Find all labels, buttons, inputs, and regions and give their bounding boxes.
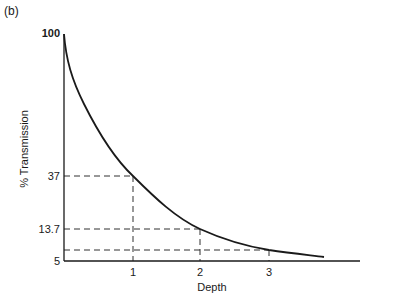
- x-tick-3: 3: [266, 266, 272, 278]
- y-tick-100: 100: [42, 27, 60, 39]
- reference-lines: [64, 176, 269, 261]
- x-tick-1: 1: [130, 266, 136, 278]
- transmission-curve: [64, 34, 324, 257]
- transmission-chart: (b) 100 37 13.7 5 1 2 3 Depth % Transmis…: [0, 0, 414, 306]
- x-axis-label: Depth: [197, 281, 226, 293]
- y-tick-5: 5: [54, 255, 60, 267]
- y-tick-37: 37: [48, 170, 60, 182]
- x-tick-2: 2: [197, 266, 203, 278]
- y-axis-label: % Transmission: [18, 110, 30, 188]
- panel-label: (b): [4, 4, 19, 18]
- y-tick-13.7: 13.7: [39, 223, 60, 235]
